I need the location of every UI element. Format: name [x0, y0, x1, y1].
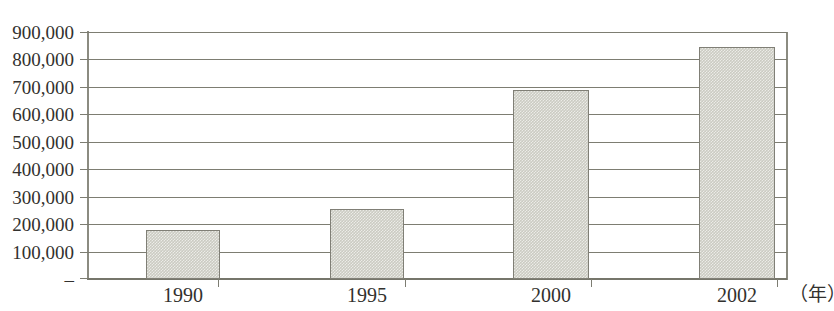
- gridline-700000: [87, 87, 787, 88]
- y-axis-tick-zero: [80, 278, 88, 279]
- y-axis-tick-label-zero: –: [0, 270, 74, 289]
- y-axis-tick-label: 100,000: [0, 243, 74, 262]
- y-axis-tick: [80, 252, 88, 253]
- y-axis-tick-label: 700,000: [0, 78, 74, 97]
- gridline-400000: [87, 169, 787, 170]
- x-axis-tick-label: 1995: [327, 283, 407, 307]
- gridline-800000: [87, 59, 787, 60]
- gridline-500000: [87, 142, 787, 143]
- y-axis-tick-label: 600,000: [0, 105, 74, 124]
- y-axis-tick-label: 500,000: [0, 133, 74, 152]
- gridline-600000: [87, 114, 787, 115]
- x-axis-tick-label: 2002: [697, 283, 777, 307]
- y-axis-tick: [80, 142, 88, 143]
- x-axis-unit-label: （年）: [789, 283, 834, 307]
- plot-area: [87, 32, 787, 279]
- bar-chart: 900,000 800,000 700,000 600,000 500,000 …: [0, 0, 834, 311]
- bar-1990: [146, 230, 220, 279]
- bar-1995: [330, 209, 404, 279]
- y-axis-line: [87, 31, 89, 280]
- y-axis-tick: [80, 59, 88, 60]
- y-axis-tick: [80, 169, 88, 170]
- gridline-900000: [87, 32, 787, 33]
- y-axis-tick: [80, 197, 88, 198]
- x-axis-tick-label: 2000: [511, 283, 591, 307]
- y-axis-tick-label: 800,000: [0, 50, 74, 69]
- y-axis-tick-label: 200,000: [0, 215, 74, 234]
- plot-right-border: [786, 32, 788, 280]
- y-axis-tick: [80, 87, 88, 88]
- bar-2000: [513, 90, 589, 279]
- y-axis-tick: [80, 224, 88, 225]
- bar-2002: [699, 47, 775, 279]
- gridline-300000: [87, 197, 787, 198]
- x-axis-tick-label: 1990: [143, 283, 223, 307]
- y-axis-tick-label: 300,000: [0, 188, 74, 207]
- y-axis-tick: [80, 32, 88, 33]
- y-axis-labels: 900,000 800,000 700,000 600,000 500,000 …: [0, 0, 84, 311]
- gridline-200000: [87, 224, 787, 225]
- y-axis-tick-label: 400,000: [0, 160, 74, 179]
- y-axis-tick: [80, 114, 88, 115]
- y-axis-tick-label: 900,000: [0, 23, 74, 42]
- x-axis-labels: 1990 1995 2000 2002: [87, 283, 787, 311]
